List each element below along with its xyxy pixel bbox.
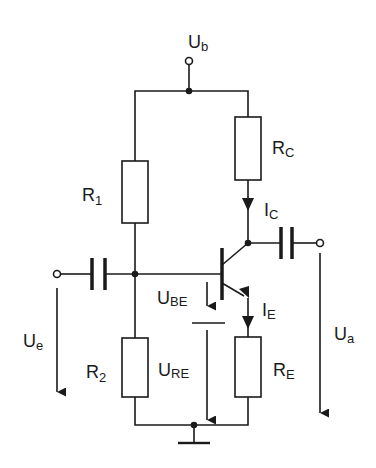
input-terminal: [54, 271, 61, 278]
ie-current-arrow: [242, 316, 254, 329]
resistor-re: [235, 337, 261, 397]
node-ground: [191, 422, 198, 429]
node-supply: [186, 88, 193, 95]
resistor-rc: [235, 117, 261, 180]
label-ic: IC: [264, 200, 278, 222]
emitter-arrow: [239, 286, 249, 298]
resistor-r1: [122, 161, 148, 223]
label-ure: URE: [158, 360, 189, 381]
node-collector: [245, 240, 252, 247]
node-base: [132, 271, 139, 278]
label-r2: R2: [86, 362, 106, 385]
label-ub: Ub: [188, 32, 208, 54]
supply-terminal: [186, 58, 193, 65]
resistor-r2: [122, 338, 148, 397]
label-ua: Ua: [334, 324, 355, 346]
label-rc: RC: [272, 138, 294, 160]
schematic: Ub RC R1 IC UBE IE Ue Ua R2 URE RE: [0, 0, 376, 468]
circuit-diagram: Ub RC R1 IC UBE IE Ue Ua R2 URE RE: [0, 0, 376, 468]
label-ue: Ue: [23, 331, 43, 353]
label-re: RE: [273, 360, 295, 382]
ic-current-arrow: [242, 198, 254, 211]
output-terminal: [317, 240, 324, 247]
label-r1: R1: [82, 185, 102, 208]
label-ie: IE: [262, 300, 276, 322]
label-ube: UBE: [157, 288, 188, 309]
